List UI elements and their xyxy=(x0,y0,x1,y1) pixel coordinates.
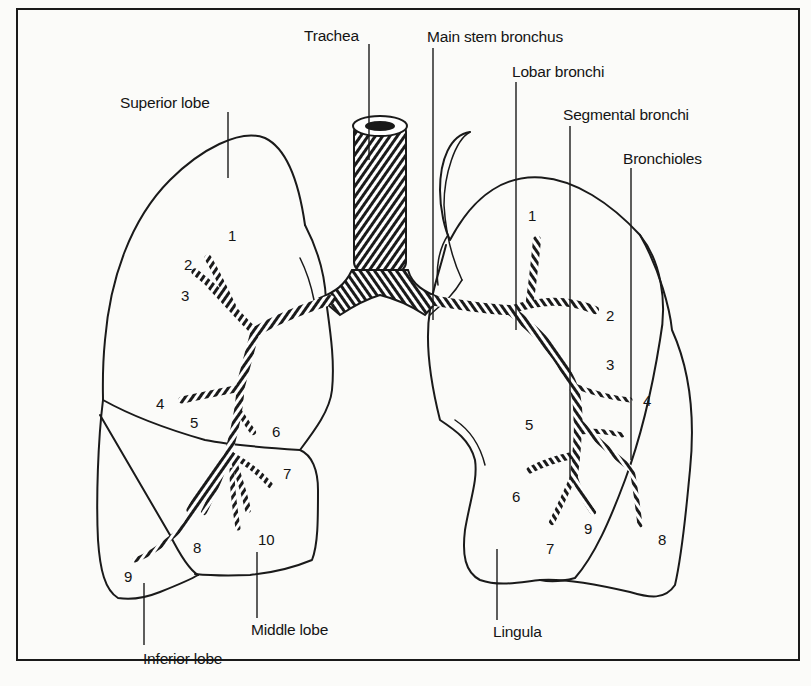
label-middle-lobe: Middle lobe xyxy=(251,622,328,638)
right-superior-lobe-outline xyxy=(103,136,305,400)
left-segment-1: 1 xyxy=(528,208,536,223)
left-segment-7: 7 xyxy=(546,541,554,556)
right-segment-1: 1 xyxy=(228,228,236,243)
label-superior-lobe: Superior lobe xyxy=(120,95,210,111)
label-bronchioles: Bronchioles xyxy=(623,151,702,167)
inferior-lobe-outline xyxy=(97,400,198,599)
label-lobar-bronchi: Lobar bronchi xyxy=(512,64,604,80)
right-lung xyxy=(97,136,333,599)
right-segment-2: 2 xyxy=(184,257,192,272)
left-bronchial-tree xyxy=(430,240,640,525)
left-segment-9: 9 xyxy=(584,521,592,536)
label-trachea: Trachea xyxy=(304,28,359,44)
label-inferior-lobe: Inferior lobe xyxy=(143,651,222,667)
right-segment-9: 9 xyxy=(124,569,132,584)
right-segment-7: 7 xyxy=(283,466,291,481)
label-segmental-bronchi: Segmental bronchi xyxy=(563,107,689,123)
left-segment-8: 8 xyxy=(658,532,666,547)
label-lingula: Lingula xyxy=(493,624,542,640)
left-segment-5: 5 xyxy=(525,417,533,432)
right-segment-10: 10 xyxy=(258,532,275,547)
right-segment-3: 3 xyxy=(181,288,189,303)
right-segment-8: 8 xyxy=(193,540,201,555)
left-segment-2: 2 xyxy=(606,308,614,323)
left-segment-3: 3 xyxy=(606,357,614,372)
right-segment-4: 4 xyxy=(156,396,164,411)
right-segment-5: 5 xyxy=(190,415,198,430)
horizontal-fissure xyxy=(103,400,300,450)
label-main-stem-bronchus: Main stem bronchus xyxy=(427,29,563,45)
left-segment-6: 6 xyxy=(512,489,520,504)
right-segment-6: 6 xyxy=(272,424,280,439)
trachea xyxy=(320,116,440,315)
left-segment-4: 4 xyxy=(643,393,651,408)
